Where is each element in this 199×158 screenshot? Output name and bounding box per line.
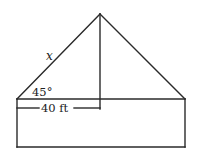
roof-right-edge — [100, 14, 185, 99]
house-roof-diagram: x 45° 40 ft — [0, 0, 199, 158]
hypotenuse-label: x — [46, 49, 53, 63]
roof-left-edge — [17, 14, 100, 99]
angle-label: 45° — [32, 85, 52, 99]
half-base-label: 40 ft — [41, 101, 69, 115]
